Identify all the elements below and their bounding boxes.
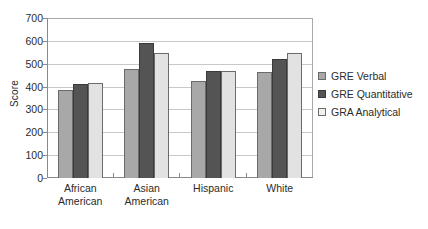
legend-swatch-icon [318,72,326,80]
legend: GRE VerbalGRE QuantitativeGRA Analytical [318,70,413,118]
x-axis-label-line: American [114,195,181,208]
bar [139,43,154,178]
y-axis-title: Score [9,64,20,124]
legend-item: GRA Analytical [318,106,413,118]
x-axis-label-line: Asian [114,182,181,195]
x-axis-label: AfricanAmerican [47,182,114,207]
legend-label: GRA Analytical [331,106,400,118]
bar-group [114,18,181,178]
bar [221,71,236,178]
x-axis-label-line: White [247,182,314,195]
plot-area: 0100200300400500600700 [47,18,313,178]
bar [272,59,287,178]
x-axis-label-line: Hispanic [180,182,247,195]
y-axis-tick-label: 700 [25,12,43,24]
bar-group [247,18,314,178]
bar-group [47,18,114,178]
y-axis-tick-label: 300 [25,103,43,115]
legend-item: GRE Quantitative [318,88,413,100]
x-axis-label-line: American [47,195,114,208]
x-axis-label: White [247,182,314,207]
bar [206,71,221,178]
legend-label: GRE Verbal [331,70,386,82]
legend-item: GRE Verbal [318,70,413,82]
y-axis-tick-label: 500 [25,58,43,70]
bar [257,72,272,178]
y-axis-tick-label: 400 [25,81,43,93]
legend-label: GRE Quantitative [331,88,413,100]
bar [287,53,302,178]
bar [58,90,73,178]
x-axis-label: AsianAmerican [114,182,181,207]
bar [191,81,206,178]
x-axis-labels: AfricanAmericanAsianAmericanHispanicWhit… [47,182,313,207]
y-axis-tick-label: 100 [25,149,43,161]
y-axis-tick-label: 600 [25,35,43,47]
bar-group [180,18,247,178]
bar-chart: Score 0100200300400500600700 AfricanAmer… [0,0,428,229]
bar [88,83,103,178]
y-axis-tick-mark [43,178,47,179]
bar-groups [47,18,313,178]
y-axis-tick-label: 200 [25,126,43,138]
x-axis-label: Hispanic [180,182,247,207]
legend-swatch-icon [318,90,326,98]
bar [124,69,139,178]
bar [154,53,169,178]
x-axis-label-line: African [47,182,114,195]
bar [73,84,88,178]
legend-swatch-icon [318,108,326,116]
